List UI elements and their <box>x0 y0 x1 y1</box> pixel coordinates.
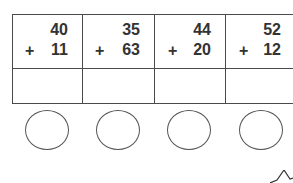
plus-sign: + <box>95 42 104 60</box>
problem-cell-3: 44 + 20 <box>154 15 225 68</box>
answer-circle-2[interactable] <box>96 110 140 150</box>
star-icon <box>270 170 293 183</box>
addition-problems-table: 40 + 11 35 + 63 44 + 20 52 + 12 <box>12 14 293 104</box>
plus-sign: + <box>168 42 177 60</box>
addend-top: 35 <box>122 22 140 38</box>
answer-cell-2[interactable] <box>83 69 154 104</box>
answer-cell-4[interactable] <box>226 69 293 104</box>
plus-sign: + <box>239 42 248 60</box>
answer-cell-1[interactable] <box>13 69 82 104</box>
problem-cell-1: 40 + 11 <box>13 15 82 68</box>
problem-cell-4: 52 + 12 <box>225 15 293 68</box>
addend-top: 52 <box>263 22 281 38</box>
addend-top: 44 <box>193 22 211 38</box>
addend-top: 40 <box>50 22 68 38</box>
answer-circle-3[interactable] <box>167 110 211 150</box>
addend-bottom: 20 <box>193 42 211 58</box>
plus-sign: + <box>25 42 34 60</box>
problem-cell-2: 35 + 63 <box>82 15 154 68</box>
answer-cell-3[interactable] <box>155 69 225 104</box>
addend-bottom: 63 <box>122 42 140 58</box>
addend-bottom: 11 <box>51 42 68 58</box>
addend-bottom: 12 <box>263 42 281 58</box>
answer-circle-1[interactable] <box>25 110 69 150</box>
answer-circle-4[interactable] <box>239 110 283 150</box>
